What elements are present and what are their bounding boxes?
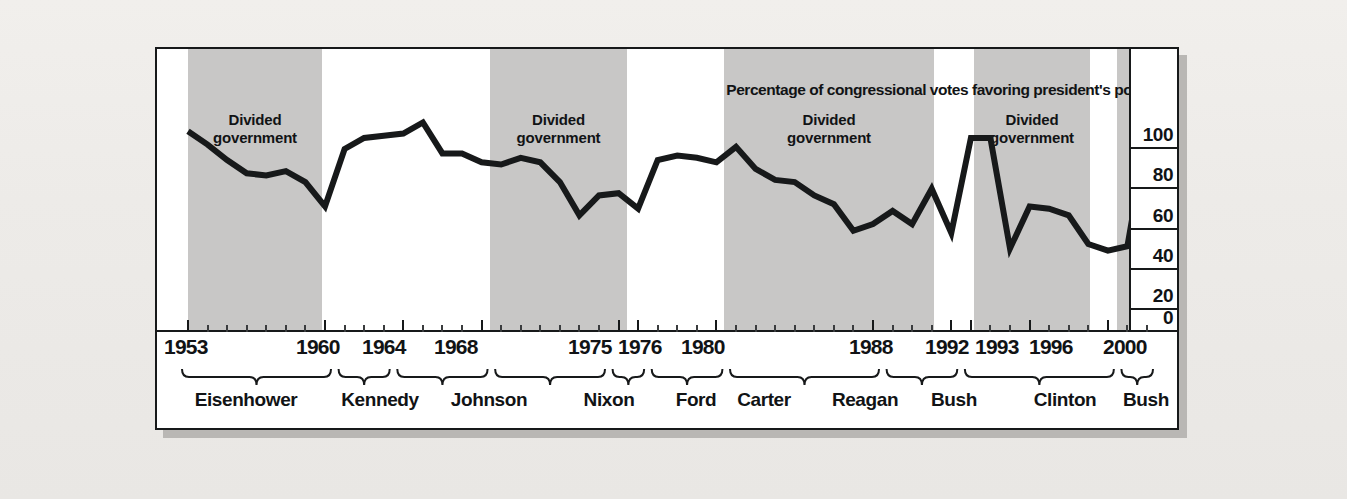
x-axis-minor-tick bbox=[911, 325, 913, 332]
y-tick-label: 60 bbox=[1153, 205, 1173, 227]
year-label: 1968 bbox=[434, 335, 478, 359]
x-axis-minor-tick bbox=[1048, 325, 1050, 332]
y-gridline bbox=[1129, 268, 1177, 270]
president-label: Johnson bbox=[434, 389, 544, 411]
x-axis-minor-tick bbox=[344, 325, 346, 332]
x-axis-minor-tick bbox=[520, 325, 522, 332]
x-axis-major-tick bbox=[637, 320, 639, 332]
year-label: 1980 bbox=[681, 335, 725, 359]
year-label: 1992 bbox=[925, 335, 969, 359]
x-axis-major-tick bbox=[950, 320, 952, 332]
x-axis-major-tick bbox=[715, 320, 717, 332]
x-axis-minor-tick bbox=[1146, 325, 1148, 332]
y-tick-label: 100 bbox=[1143, 124, 1173, 146]
president-label: Carter bbox=[724, 389, 804, 411]
x-axis-minor-tick bbox=[735, 325, 737, 332]
president-label: Bush bbox=[1115, 389, 1177, 411]
president-label: Bush bbox=[917, 389, 991, 411]
x-axis-minor-tick bbox=[539, 325, 541, 332]
president-name-labels: Eisenhower Kennedy Johnson Nixon Ford Ca… bbox=[157, 389, 1177, 423]
president-term-brace bbox=[339, 369, 390, 385]
x-axis-minor-tick bbox=[363, 325, 365, 332]
x-axis-year-labels: 1953 1960 1964 1968 1975 1976 1980 1988 … bbox=[157, 335, 1177, 367]
year-label: 1953 bbox=[164, 335, 208, 359]
year-label: 1988 bbox=[849, 335, 893, 359]
x-axis-minor-tick bbox=[892, 325, 894, 332]
president-label: Ford bbox=[665, 389, 727, 411]
x-axis-minor-tick bbox=[657, 325, 659, 332]
x-axis-minor-tick bbox=[578, 325, 580, 332]
x-axis-major-tick bbox=[1029, 320, 1031, 332]
president-term-brace bbox=[182, 369, 331, 385]
year-label: 1993 bbox=[975, 335, 1019, 359]
data-series-line bbox=[188, 123, 1147, 251]
y-tick-label: 20 bbox=[1153, 285, 1173, 307]
x-axis-minor-tick bbox=[696, 325, 698, 332]
x-axis-minor-tick bbox=[813, 325, 815, 332]
president-term-brace bbox=[1121, 369, 1153, 385]
x-axis-minor-tick bbox=[383, 325, 385, 332]
chart-figure: Divided government Divided government Di… bbox=[155, 47, 1179, 430]
x-axis-minor-tick bbox=[500, 325, 502, 332]
president-label: Kennedy bbox=[325, 389, 435, 411]
year-label: 2000 bbox=[1103, 335, 1147, 359]
x-axis-minor-tick bbox=[774, 325, 776, 332]
x-axis-major-tick bbox=[481, 320, 483, 332]
x-axis-minor-tick bbox=[852, 325, 854, 332]
president-term-brace bbox=[495, 369, 605, 385]
y-gridline bbox=[1129, 228, 1177, 230]
y-tick-label: 80 bbox=[1153, 164, 1173, 186]
x-axis-major-tick bbox=[618, 320, 620, 332]
year-label: 1976 bbox=[618, 335, 662, 359]
x-axis-minor-tick bbox=[755, 325, 757, 332]
x-axis-minor-tick bbox=[1009, 325, 1011, 332]
x-axis-minor-tick bbox=[265, 325, 267, 332]
x-axis-minor-tick bbox=[559, 325, 561, 332]
x-axis-minor-tick bbox=[1126, 325, 1128, 332]
president-label: Nixon bbox=[549, 389, 669, 411]
president-label: Clinton bbox=[998, 389, 1132, 411]
x-axis-minor-tick bbox=[422, 325, 424, 332]
x-axis-major-tick bbox=[187, 320, 189, 332]
data-line-svg bbox=[157, 49, 1177, 332]
x-axis-minor-tick bbox=[304, 325, 306, 332]
president-term-brace bbox=[652, 369, 723, 385]
year-label: 1964 bbox=[362, 335, 406, 359]
x-axis-minor-tick bbox=[794, 325, 796, 332]
y-gridline bbox=[1129, 187, 1177, 189]
president-term-brace bbox=[397, 369, 487, 385]
president-term-brace bbox=[965, 369, 1114, 385]
year-label: 1975 bbox=[568, 335, 612, 359]
x-axis-minor-tick bbox=[246, 325, 248, 332]
x-axis-minor-tick bbox=[1068, 325, 1070, 332]
x-axis-major-tick bbox=[1107, 320, 1109, 332]
year-label: 1996 bbox=[1029, 335, 1073, 359]
x-axis-ticks bbox=[157, 320, 1177, 332]
x-axis-minor-tick bbox=[931, 325, 933, 332]
x-axis-minor-tick bbox=[598, 325, 600, 332]
y-tick-label: 40 bbox=[1153, 245, 1173, 267]
president-term-brace bbox=[730, 369, 879, 385]
x-axis-major-tick bbox=[970, 320, 972, 332]
year-label: 1960 bbox=[296, 335, 340, 359]
x-axis-minor-tick bbox=[285, 325, 287, 332]
president-term-brace bbox=[887, 369, 958, 385]
y-gridline bbox=[1129, 147, 1177, 149]
president-term-brace bbox=[613, 369, 645, 385]
x-axis-minor-tick bbox=[207, 325, 209, 332]
x-axis-major-tick bbox=[872, 320, 874, 332]
president-label: Eisenhower bbox=[171, 389, 321, 411]
x-axis-minor-tick bbox=[441, 325, 443, 332]
x-axis-major-tick bbox=[324, 320, 326, 332]
y-axis: 100 80 60 40 20 0 bbox=[1129, 49, 1177, 332]
x-axis-minor-tick bbox=[989, 325, 991, 332]
x-axis-minor-tick bbox=[1087, 325, 1089, 332]
x-axis-minor-tick bbox=[833, 325, 835, 332]
x-axis-minor-tick bbox=[676, 325, 678, 332]
x-axis-minor-tick bbox=[226, 325, 228, 332]
president-label: Reagan bbox=[795, 389, 935, 411]
x-axis-minor-tick bbox=[461, 325, 463, 332]
plot-area: Divided government Divided government Di… bbox=[157, 49, 1177, 332]
page-background: Divided government Divided government Di… bbox=[0, 0, 1347, 499]
x-axis-major-tick bbox=[402, 320, 404, 332]
